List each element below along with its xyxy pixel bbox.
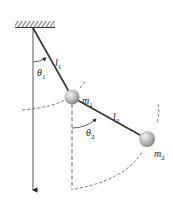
theta1-arc <box>33 58 46 62</box>
mass-m2 <box>139 131 155 147</box>
theta2-arc <box>72 119 96 128</box>
mass-m1 <box>65 90 80 105</box>
m2-trajectory-arc-upper <box>157 104 159 122</box>
label-theta2: θ2 <box>86 127 95 141</box>
label-l2: l2 <box>113 111 120 125</box>
m1-trajectory-arc-upper <box>80 80 86 88</box>
m2-trajectory-arc-lower <box>75 152 142 189</box>
rod-l1 <box>33 28 72 97</box>
m1-trajectory-arc <box>22 98 70 110</box>
label-m2: m2 <box>154 148 165 162</box>
double-pendulum-diagram: θ1 l1 m1 l2 θ2 m2 <box>0 0 173 206</box>
ceiling-support <box>15 21 55 28</box>
label-theta1: θ1 <box>37 67 46 81</box>
